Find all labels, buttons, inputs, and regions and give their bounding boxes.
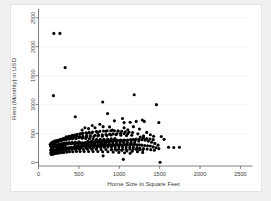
data-point (75, 150, 78, 153)
data-point (50, 147, 53, 150)
data-point (76, 147, 79, 150)
data-point (81, 129, 84, 132)
data-point-series (49, 32, 181, 164)
data-point (77, 140, 80, 143)
data-point (120, 130, 123, 133)
y-tick-label: 0 (30, 161, 36, 164)
data-point (148, 138, 151, 141)
data-point (123, 138, 126, 141)
data-point (71, 150, 74, 153)
data-point (109, 129, 112, 132)
y-tick-label: 500 (30, 129, 36, 138)
data-point (142, 136, 145, 139)
data-point (123, 121, 126, 124)
data-point (133, 141, 136, 144)
x-tick-label: 1000 (113, 171, 125, 177)
data-point (96, 150, 99, 153)
data-point (139, 136, 142, 139)
data-point (97, 133, 100, 136)
data-point (84, 131, 87, 134)
data-point (138, 127, 141, 130)
data-point (113, 129, 116, 132)
data-point (150, 141, 153, 144)
data-point (129, 141, 132, 144)
data-point (128, 148, 131, 151)
data-point (102, 125, 105, 128)
data-point (87, 127, 90, 130)
data-point (83, 143, 86, 146)
data-point (91, 130, 94, 133)
data-point (79, 150, 82, 153)
data-point (123, 126, 126, 129)
data-point (74, 115, 77, 118)
data-point (156, 144, 159, 147)
data-point (157, 121, 160, 124)
x-axis-ticks: 05001000150020002500 (37, 166, 247, 177)
data-point (96, 146, 99, 149)
x-tick-label: 1500 (153, 171, 165, 177)
data-point (68, 150, 71, 153)
data-point (106, 112, 109, 115)
data-point (90, 143, 93, 146)
data-point (74, 140, 77, 143)
data-point (91, 150, 94, 153)
data-point (108, 133, 111, 136)
data-point (145, 137, 148, 140)
data-point (72, 147, 75, 150)
data-point (98, 123, 101, 126)
data-point (155, 103, 158, 106)
data-point (153, 149, 156, 152)
data-point (89, 134, 92, 137)
data-point (127, 131, 130, 134)
data-point (52, 94, 55, 97)
y-tick-label: 1500 (30, 69, 36, 81)
data-point (157, 147, 160, 150)
data-point (152, 135, 155, 138)
data-point (115, 132, 118, 135)
data-point (123, 151, 126, 154)
data-point (67, 141, 70, 144)
data-point (111, 141, 114, 144)
data-point (143, 144, 146, 147)
data-point (76, 133, 79, 136)
data-point (78, 132, 81, 135)
x-tick-label: 2500 (234, 171, 246, 177)
x-tick-label: 2000 (194, 171, 206, 177)
data-point (77, 143, 80, 146)
data-point (93, 143, 96, 146)
data-point (172, 146, 175, 149)
data-point (136, 132, 139, 135)
data-point (104, 133, 107, 136)
data-point (103, 143, 106, 146)
data-point (58, 32, 61, 35)
data-point (112, 132, 115, 135)
data-point (64, 66, 67, 69)
data-point (74, 144, 77, 147)
data-point (124, 130, 127, 133)
data-point (112, 139, 115, 142)
data-point (115, 141, 118, 144)
data-point (88, 131, 91, 134)
data-point (149, 144, 152, 147)
data-point (102, 154, 105, 157)
data-point (149, 133, 152, 136)
x-tick-label: 500 (74, 171, 83, 177)
data-point (146, 148, 149, 151)
data-point (69, 147, 72, 150)
data-point (129, 152, 132, 155)
data-point (163, 138, 166, 141)
data-point (79, 146, 82, 149)
x-axis-title: Home Size in Square Feet (107, 180, 180, 187)
gridlines (39, 18, 249, 163)
data-point (60, 138, 63, 141)
data-point (108, 125, 111, 128)
data-point (95, 130, 98, 133)
data-point (149, 148, 152, 151)
data-point (129, 121, 132, 124)
data-point (87, 150, 90, 153)
data-point (135, 148, 138, 151)
data-point (152, 145, 155, 148)
data-point (80, 143, 83, 146)
x-tick-label: 0 (37, 171, 40, 177)
data-point (92, 146, 95, 149)
